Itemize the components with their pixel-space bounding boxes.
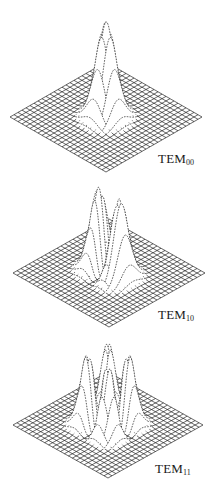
grid-line [105, 133, 138, 153]
tem11-label-main: TEM [155, 461, 183, 476]
grid-line [146, 260, 181, 279]
tem10-label-subscript: 10 [186, 314, 194, 323]
tem00-label-main: TEM [158, 151, 186, 166]
tem11-label: TEM11 [155, 461, 191, 477]
laser-mode-figure: TEM00 TEM10 TEM11 [0, 0, 219, 497]
grid-line [137, 115, 170, 135]
tem10-label: TEM10 [158, 307, 194, 323]
tem00-label-subscript: 00 [186, 158, 194, 167]
tem10-label-main: TEM [158, 307, 186, 322]
tem11-surface-plot [13, 344, 203, 478]
tem11-label-subscript: 11 [183, 468, 191, 477]
grid-line [42, 115, 75, 135]
mode-surface-plots [0, 0, 219, 497]
tem00-label: TEM00 [158, 151, 194, 167]
grid-line [84, 280, 95, 286]
tem00-surface-plot [10, 22, 202, 172]
grid-line [74, 133, 107, 153]
